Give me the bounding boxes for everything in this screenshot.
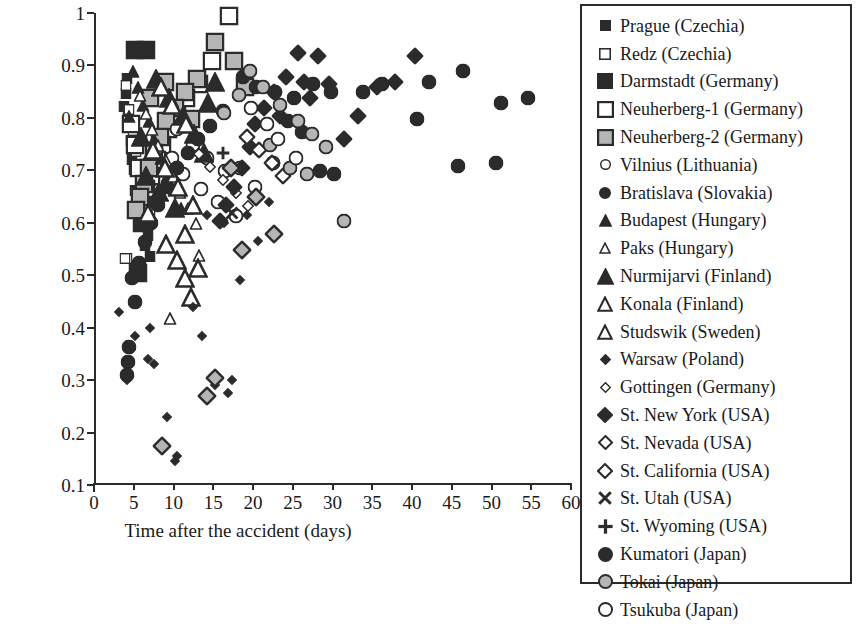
data-point bbox=[217, 106, 232, 125]
data-point bbox=[197, 327, 207, 345]
legend-item[interactable]: Budapest (Hungary) bbox=[592, 207, 844, 235]
x-tick-label: 35 bbox=[363, 493, 382, 512]
legend-item[interactable]: Neuherberg-1 (Germany) bbox=[592, 95, 844, 123]
legend-item[interactable]: Prague (Czechia) bbox=[592, 12, 844, 40]
legend-item[interactable]: St. Wyoming (USA) bbox=[592, 512, 844, 540]
legend-item-label: Vilnius (Lithuania) bbox=[618, 156, 757, 174]
data-point bbox=[205, 33, 224, 56]
legend-item[interactable]: Warsaw (Poland) bbox=[592, 346, 844, 374]
data-point bbox=[128, 295, 143, 314]
legend-item[interactable]: Konala (Finland) bbox=[592, 290, 844, 318]
legend-item-label: St. Wyoming (USA) bbox=[618, 517, 767, 535]
data-point bbox=[204, 159, 216, 177]
legend-marker-icon bbox=[592, 20, 618, 31]
x-tick-label: 10 bbox=[164, 493, 183, 512]
data-point bbox=[319, 140, 334, 159]
data-point bbox=[407, 47, 424, 68]
data-point bbox=[183, 195, 203, 219]
legend-item-label: Warsaw (Poland) bbox=[618, 350, 744, 368]
legend-marker-icon bbox=[592, 73, 618, 89]
y-tick bbox=[87, 274, 94, 276]
data-point bbox=[289, 44, 306, 65]
data-point bbox=[153, 437, 172, 460]
data-point bbox=[172, 447, 182, 465]
legend-marker-icon bbox=[592, 602, 618, 617]
legend-marker-icon bbox=[592, 435, 618, 450]
data-point bbox=[220, 7, 239, 30]
data-point bbox=[238, 128, 255, 149]
data-point bbox=[198, 93, 218, 117]
legend-marker-icon bbox=[592, 268, 618, 285]
legend-item[interactable]: Nurmijarvi (Finland) bbox=[592, 262, 844, 290]
data-point bbox=[225, 205, 240, 224]
data-point bbox=[455, 64, 470, 83]
data-point bbox=[255, 80, 270, 99]
x-tick-label: 45 bbox=[442, 493, 461, 512]
legend-item[interactable]: St. California (USA) bbox=[592, 457, 844, 485]
y-tick bbox=[87, 12, 94, 14]
data-point bbox=[521, 90, 536, 109]
legend-item-label: Nurmijarvi (Finland) bbox=[618, 267, 771, 285]
data-point bbox=[310, 47, 327, 68]
x-tick-label: 15 bbox=[204, 493, 223, 512]
legend-item[interactable]: Paks (Hungary) bbox=[592, 234, 844, 262]
legend-marker-icon bbox=[592, 518, 618, 535]
legend-item-label: Gottingen (Germany) bbox=[618, 378, 775, 396]
data-point bbox=[264, 224, 283, 247]
legend-item[interactable]: Vilnius (Lithuania) bbox=[592, 151, 844, 179]
legend-marker-icon bbox=[592, 48, 618, 60]
y-tick bbox=[87, 169, 94, 171]
data-point bbox=[137, 234, 152, 253]
y-tick-label: 0.8 bbox=[61, 108, 85, 127]
data-point bbox=[273, 98, 288, 117]
data-point bbox=[149, 355, 159, 373]
legend-marker-icon bbox=[592, 354, 618, 365]
data-point bbox=[130, 327, 140, 345]
data-point bbox=[114, 303, 124, 321]
legend-item-label: St. California (USA) bbox=[618, 462, 769, 480]
legend-marker-icon bbox=[592, 490, 618, 506]
legend-item-label: Prague (Czechia) bbox=[618, 17, 744, 35]
data-point bbox=[451, 158, 466, 177]
y-tick-label: 0.3 bbox=[61, 371, 85, 390]
data-point bbox=[205, 369, 224, 392]
data-point bbox=[321, 76, 338, 97]
plot-area: 0.10.20.30.40.50.60.70.80.91 05101520253… bbox=[94, 13, 571, 485]
legend-item[interactable]: St. Nevada (USA) bbox=[592, 429, 844, 457]
data-point bbox=[232, 240, 251, 263]
legend-item[interactable]: St. Utah (USA) bbox=[592, 485, 844, 513]
data-point bbox=[175, 224, 195, 248]
legend-item[interactable]: Studswik (Sweden) bbox=[592, 318, 844, 346]
legend-item[interactable]: Gottingen (Germany) bbox=[592, 373, 844, 401]
legend-item[interactable]: Kumatori (Japan) bbox=[592, 540, 844, 568]
legend-item[interactable]: St. New York (USA) bbox=[592, 401, 844, 429]
data-point bbox=[122, 109, 135, 127]
data-point bbox=[235, 271, 245, 289]
legend-marker-icon bbox=[592, 382, 618, 393]
legend-item[interactable]: Tokai (Japan) bbox=[592, 568, 844, 596]
data-point bbox=[188, 298, 198, 316]
legend-marker-icon bbox=[592, 324, 618, 340]
legend-marker-icon bbox=[592, 129, 618, 146]
y-tick bbox=[87, 379, 94, 381]
x-tick-label: 50 bbox=[482, 493, 501, 512]
data-point bbox=[227, 371, 237, 389]
legend-item[interactable]: Redz (Czechia) bbox=[592, 40, 844, 68]
legend-item[interactable]: Neuherberg-2 (Germany) bbox=[592, 123, 844, 151]
data-point bbox=[336, 213, 351, 232]
legend-item[interactable]: Tsukuba (Japan) bbox=[592, 596, 844, 624]
x-tick-label: 40 bbox=[403, 493, 422, 512]
legend-item[interactable]: Darmstadt (Germany) bbox=[592, 68, 844, 96]
legend-item[interactable]: Bratislava (Slovakia) bbox=[592, 179, 844, 207]
legend-marker-icon bbox=[592, 574, 618, 589]
data-point bbox=[247, 188, 266, 211]
y-tick-label: 0.2 bbox=[61, 423, 85, 442]
legend-marker-icon bbox=[592, 214, 618, 227]
legend-item-label: Bratislava (Slovakia) bbox=[618, 184, 772, 202]
legend-item-label: Redz (Czechia) bbox=[618, 45, 731, 63]
data-point bbox=[121, 353, 131, 371]
data-point bbox=[335, 131, 352, 152]
x-tick-label: 5 bbox=[129, 493, 139, 512]
legend-item-label: Kumatori (Japan) bbox=[618, 545, 746, 563]
data-point bbox=[145, 319, 155, 337]
